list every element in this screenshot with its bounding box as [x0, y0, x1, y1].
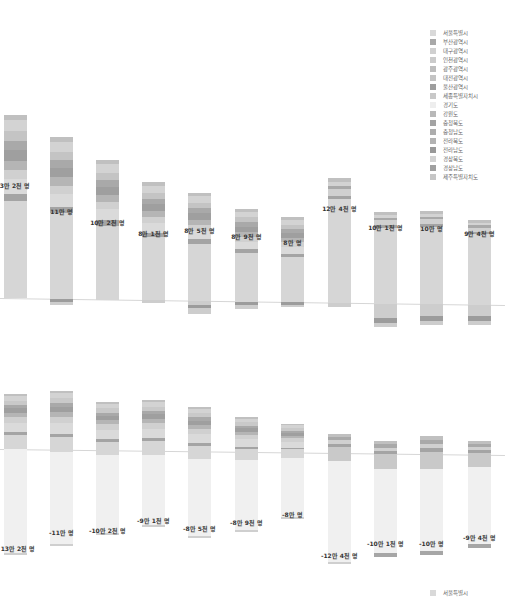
bar-segment — [420, 551, 443, 555]
legend-label: 세종특별자치시 — [443, 92, 478, 100]
bar-segment — [468, 453, 491, 467]
legend-swatch — [430, 84, 436, 90]
legend-label: 대구광역시 — [443, 47, 468, 55]
bar[interactable] — [328, 434, 351, 461]
legend-swatch — [430, 147, 436, 153]
value-label: -9만 4천 명 — [463, 533, 496, 542]
legend-swatch — [430, 48, 436, 54]
legend-label: 서울특별시 — [443, 589, 468, 597]
bar[interactable] — [420, 436, 443, 469]
legend-swatch — [430, 120, 436, 126]
bar-segment — [420, 452, 443, 469]
bar-segment — [50, 423, 73, 434]
legend-swatch — [430, 57, 436, 63]
value-label: 13만 2천 명 — [1, 544, 36, 553]
legend-item[interactable]: 부산광역시 — [430, 37, 478, 46]
bar[interactable] — [188, 407, 211, 459]
bar-negative[interactable] — [328, 461, 351, 564]
bar-segment — [142, 441, 165, 455]
legend-label: 광주광역시 — [443, 65, 468, 73]
bar-segment — [96, 442, 119, 455]
bar-segment — [4, 435, 27, 449]
legend-swatch — [430, 138, 436, 144]
legend-swatch — [430, 165, 436, 171]
bar-segment — [374, 553, 397, 557]
bar-segment — [281, 449, 304, 458]
legend-label: 울산광역시 — [443, 83, 468, 91]
legend-item[interactable]: 전라남도 — [430, 145, 478, 154]
bar[interactable] — [4, 394, 27, 449]
legend-item[interactable]: 대구광역시 — [430, 46, 478, 55]
legend-item[interactable]: 광주광역시 — [430, 64, 478, 73]
legend-label: 제주특별자치도 — [443, 173, 478, 181]
legend-label: 충청북도 — [443, 119, 463, 127]
legend-label: 전라남도 — [443, 146, 463, 154]
legend-item[interactable]: 충청남도 — [430, 127, 478, 136]
legend-label: 대전광역시 — [443, 74, 468, 82]
bar-negative[interactable] — [96, 455, 119, 535]
bar-segment — [50, 437, 73, 452]
legend-item[interactable]: 울산광역시 — [430, 82, 478, 91]
value-label: -8만 9천 명 — [230, 518, 263, 527]
legend-label: 인천광역시 — [443, 56, 468, 64]
legend-swatch — [430, 590, 436, 596]
bar-segment — [96, 430, 119, 440]
bar-segment — [235, 439, 258, 447]
legend-item[interactable]: 경상남도 — [430, 163, 478, 172]
bar[interactable] — [374, 441, 397, 469]
legend: 서울특별시부산광역시대구광역시인천광역시광주광역시대전광역시울산광역시세종특별자… — [430, 28, 478, 181]
legend-label: 경기도 — [443, 101, 458, 109]
value-label: -11만 명 — [49, 528, 74, 537]
legend-item[interactable]: 인천광역시 — [430, 55, 478, 64]
value-label: -9만 1천 명 — [137, 516, 170, 525]
legend-item[interactable]: 경상북도 — [430, 154, 478, 163]
bar-segment — [374, 454, 397, 469]
legend-item[interactable]: 강원도 — [430, 109, 478, 118]
bar-segment — [188, 446, 211, 459]
bar[interactable] — [96, 402, 119, 455]
legend-item[interactable]: 서울특별시 — [430, 588, 468, 597]
legend-label: 충청남도 — [443, 128, 463, 136]
legend-item[interactable]: 세종특별자치시 — [430, 91, 478, 100]
bar-segment — [468, 544, 491, 548]
bar-segment — [50, 544, 73, 546]
legend-swatch — [430, 39, 436, 45]
bar-segment — [235, 530, 258, 532]
bar-segment — [188, 434, 211, 443]
value-label: -8만 명 — [282, 510, 303, 519]
value-label: -10만 2천 명 — [89, 526, 126, 535]
value-label: -10만 1천 명 — [367, 539, 404, 548]
bar-segment — [142, 429, 165, 439]
legend-label: 부산광역시 — [443, 38, 468, 46]
value-label: -10만 명 — [419, 539, 444, 548]
bar[interactable] — [142, 400, 165, 455]
legend-swatch — [430, 174, 436, 180]
bar[interactable] — [235, 417, 258, 460]
bar-negative[interactable] — [4, 449, 27, 555]
legend-item[interactable]: 대전광역시 — [430, 73, 478, 82]
legend-label: 전라북도 — [443, 137, 463, 145]
legend-swatch — [430, 111, 436, 117]
legend-label: 강원도 — [443, 110, 458, 118]
bar-segment — [4, 423, 27, 433]
bar-segment — [328, 562, 351, 564]
legend-label: 서울특별시 — [443, 29, 468, 37]
legend-swatch — [430, 93, 436, 99]
bar-segment — [235, 449, 258, 460]
legend-swatch — [430, 66, 436, 72]
legend-label: 경상남도 — [443, 164, 463, 172]
bottom-legend: 서울특별시 — [430, 588, 468, 597]
legend-swatch — [430, 102, 436, 108]
legend-item[interactable]: 전라북도 — [430, 136, 478, 145]
legend-item[interactable]: 충청북도 — [430, 118, 478, 127]
bar-segment — [328, 447, 351, 461]
bar[interactable] — [50, 391, 73, 452]
bar[interactable] — [468, 441, 491, 467]
value-label: -12만 4천 명 — [321, 551, 358, 560]
legend-item[interactable]: 제주특별자치도 — [430, 172, 478, 181]
legend-swatch — [430, 129, 436, 135]
legend-item[interactable]: 서울특별시 — [430, 28, 478, 37]
legend-item[interactable]: 경기도 — [430, 100, 478, 109]
legend-label: 경상북도 — [443, 155, 463, 163]
bar[interactable] — [281, 424, 304, 458]
